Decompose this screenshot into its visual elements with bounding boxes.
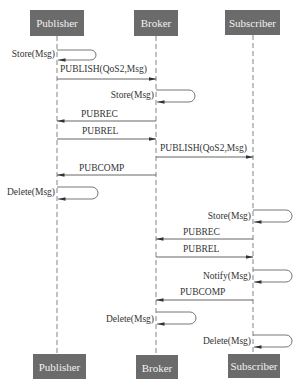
message-self-publisher-delete: Delete(Msg): [7, 187, 98, 199]
message-label: Store(Msg): [12, 49, 55, 60]
actor-label: Broker: [142, 362, 173, 374]
message-label: PUBLISH(QoS2,Msg): [160, 143, 247, 154]
message-self-subscriber-delete: Delete(Msg): [203, 335, 292, 347]
message-label: Delete(Msg): [7, 187, 55, 198]
message-pubrel-publisher-broker: PUBREL: [57, 126, 156, 139]
message-pubrec-broker-publisher: PUBREC: [57, 109, 156, 121]
actor-subscriber-top: Subscriber: [225, 10, 280, 35]
actor-label: Subscriber: [229, 17, 276, 29]
message-self-broker-delete: Delete(Msg): [106, 312, 196, 325]
message-label: PUBREC: [81, 109, 118, 119]
message-label: PUBREC: [183, 227, 220, 237]
actor-label: Broker: [141, 17, 172, 29]
actor-label: Publisher: [36, 17, 78, 29]
message-label: PUBREL: [82, 126, 119, 136]
message-self-broker-store: Store(Msg): [111, 90, 195, 102]
message-self-publisher-store: Store(Msg): [12, 49, 96, 60]
message-self-subscriber-store: Store(Msg): [208, 210, 292, 222]
message-label: PUBCOMP: [79, 163, 124, 173]
message-publish-publisher-broker: PUBLISH(QoS2,Msg): [57, 64, 156, 79]
message-label: Delete(Msg): [203, 336, 251, 347]
message-label: Delete(Msg): [106, 314, 154, 325]
message-label: PUBREL: [183, 244, 220, 254]
actor-publisher-bottom: Publisher: [33, 354, 86, 379]
message-pubcomp-broker-publisher: PUBCOMP: [57, 163, 156, 175]
message-label: Store(Msg): [208, 211, 251, 222]
actor-subscriber-bottom: Subscriber: [228, 354, 280, 378]
message-pubrec-subscriber-broker: PUBREC: [156, 227, 253, 239]
message-self-subscriber-notify: Notify(Msg): [203, 270, 292, 282]
message-label: Store(Msg): [111, 90, 154, 101]
sequence-diagram: Publisher Broker Subscriber Publisher Br…: [0, 0, 302, 387]
message-label: Notify(Msg): [203, 271, 251, 282]
actor-broker-bottom: Broker: [136, 355, 178, 379]
actor-publisher-top: Publisher: [30, 10, 84, 36]
message-pubcomp-subscriber-broker: PUBCOMP: [156, 287, 253, 300]
actor-broker-top: Broker: [134, 10, 178, 36]
actor-label: Subscriber: [230, 360, 277, 372]
message-label: PUBCOMP: [180, 287, 225, 297]
message-publish-broker-subscriber: PUBLISH(QoS2,Msg): [156, 143, 253, 157]
message-label: PUBLISH(QoS2,Msg): [60, 64, 147, 75]
message-pubrel-broker-subscriber: PUBREL: [156, 244, 253, 257]
actor-label: Publisher: [39, 361, 81, 373]
